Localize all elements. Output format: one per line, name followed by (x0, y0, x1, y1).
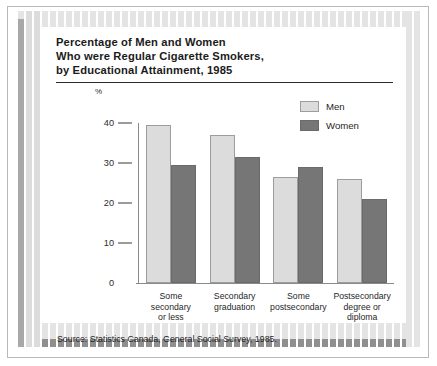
y-axis-tick-label: 30 (58, 158, 114, 168)
legend-label-men: Men (326, 101, 345, 112)
chart-legend: MenWomen (300, 99, 396, 137)
legend-item-women: Women (300, 118, 396, 133)
figure-page: Percentage of Men and Women Who were Reg… (0, 0, 437, 366)
chart-title-line-1: Percentage of Men and Women (56, 35, 396, 49)
legend-swatch-women (300, 120, 319, 131)
chart-title: Percentage of Men and Women Who were Reg… (56, 35, 396, 78)
bar-men-4 (337, 179, 362, 283)
legend-swatch-men (300, 101, 319, 112)
bar-men-2 (210, 135, 235, 283)
chart-title-line-3: by Educational Attainment, 1985 (56, 63, 396, 77)
chart-card: Percentage of Men and Women Who were Reg… (42, 27, 406, 323)
y-axis-tick-mark (118, 243, 132, 244)
x-axis-category-label-line: diploma (323, 312, 401, 323)
decorative-border-right (406, 11, 422, 347)
x-axis-category-label-line: Postsecondary (323, 291, 401, 302)
bar-men-3 (273, 177, 298, 283)
decorative-border-left-dark (18, 19, 26, 347)
bar-women-1 (171, 165, 196, 283)
bar-women-3 (298, 167, 323, 283)
legend-item-men: Men (300, 99, 396, 114)
x-axis-line (136, 283, 394, 284)
y-axis-tick-mark (118, 203, 132, 204)
y-axis-tick-mark (118, 163, 132, 164)
y-axis-tick-label: 40 (58, 118, 114, 128)
x-axis-category-labels: Somesecondaryor lessSecondarygraduationS… (58, 291, 396, 329)
x-axis-category-label-line: degree or (323, 302, 401, 313)
bar-women-2 (235, 157, 260, 283)
legend-label-women: Women (326, 120, 359, 131)
title-divider (56, 82, 393, 83)
decorative-border-left-light (26, 11, 42, 347)
bar-men-1 (146, 125, 171, 283)
x-axis-category-label-line: or less (132, 312, 210, 323)
x-axis-category-label: Postsecondarydegree ordiploma (323, 291, 401, 323)
source-note: Source: Statistics Canada, General Socia… (57, 334, 277, 344)
y-axis-tick-label: 20 (58, 198, 114, 208)
decorative-border-top (18, 11, 422, 27)
y-axis-tick-label: 0 (58, 278, 114, 288)
y-axis-tick-mark (118, 123, 132, 124)
bar-women-4 (362, 199, 387, 283)
chart-title-line-2: Who were Regular Cigarette Smokers, (56, 49, 396, 63)
y-axis-tick-label: 10 (58, 238, 114, 248)
